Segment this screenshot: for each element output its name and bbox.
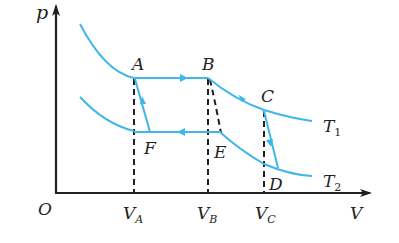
isotherm-t1-label: T1 — [323, 116, 341, 139]
pv-diagram: p O V A B C D E F T1 T2 VA VB VC — [0, 0, 399, 243]
point-d-label: D — [268, 174, 283, 194]
point-e-label: E — [213, 142, 227, 162]
process-fa — [135, 79, 150, 132]
v-axis-label: V — [350, 203, 364, 223]
isotherm-t2-right — [221, 133, 312, 176]
dashed-guides — [134, 79, 264, 193]
axes — [55, 6, 370, 193]
tick-vc-label: VC — [255, 203, 276, 226]
origin-label: O — [38, 199, 52, 219]
isotherm-t1-right — [208, 78, 312, 121]
p-axis-label: p — [36, 1, 48, 23]
isotherm-t2-label: T2 — [323, 171, 341, 194]
arrow-ef-icon — [177, 128, 185, 136]
point-f-label: F — [143, 138, 157, 158]
adiabat-be-dashed — [210, 80, 221, 133]
point-b-label: B — [201, 54, 215, 74]
tick-vb-label: VB — [197, 203, 217, 226]
arrow-ab-icon — [180, 74, 188, 82]
point-c-label: C — [261, 86, 274, 106]
process-curves — [80, 24, 312, 176]
isotherm-t2-left — [80, 97, 134, 131]
isotherm-t1-left — [80, 24, 134, 78]
tick-va-label: VA — [123, 203, 143, 226]
direction-arrows — [140, 74, 273, 147]
point-a-label: A — [130, 54, 144, 74]
